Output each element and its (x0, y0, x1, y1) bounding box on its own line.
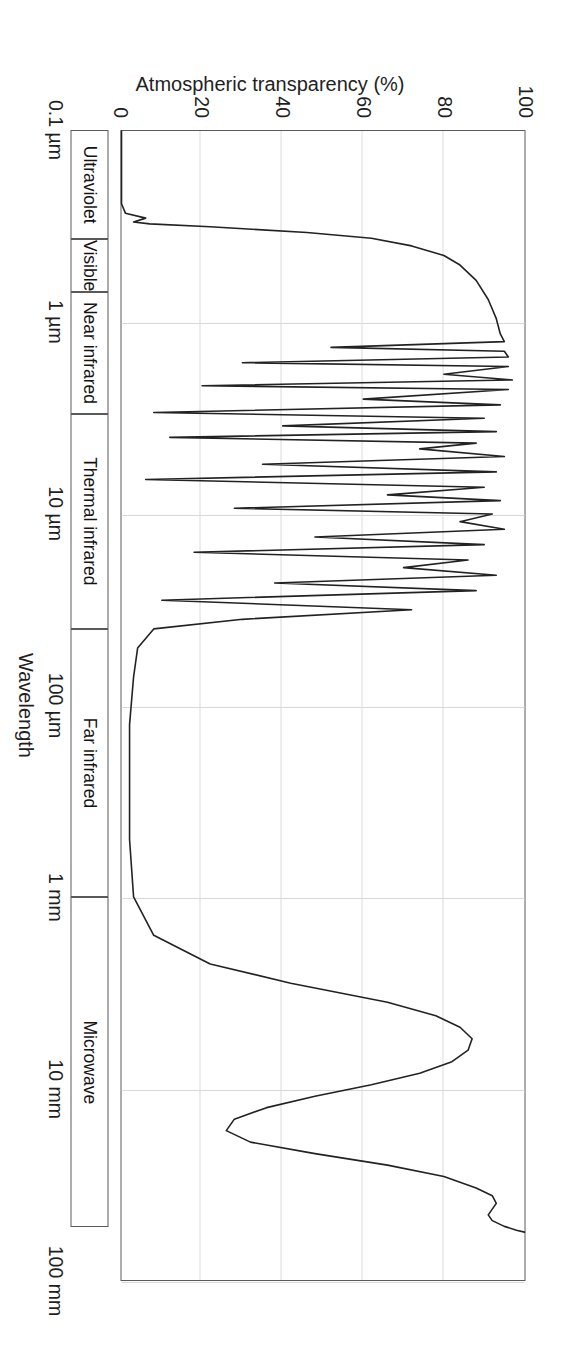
atmospheric-transparency-chart: 0 20 40 60 80 100 Atmospheric transparen… (0, 0, 567, 1362)
band-visible: Visible (70, 239, 108, 292)
transparency-curve (121, 131, 524, 1280)
gridline-vertical (121, 1282, 524, 1283)
x-tick-label: 10 µm (43, 486, 66, 541)
x-tick-label: 100 µm (43, 673, 66, 738)
band-label: Near infrared (79, 302, 100, 404)
band-ultraviolet: Ultraviolet (70, 130, 108, 239)
spectral-band-strip: UltravioletVisibleNear infraredThermal i… (70, 130, 108, 1281)
x-axis-title: Wavelength (13, 130, 36, 1281)
band-label: Thermal infrared (79, 457, 100, 585)
y-axis-labels: 0 20 40 60 80 100 Atmospheric transparen… (120, 0, 525, 126)
band-near-infrared: Near infrared (70, 292, 108, 414)
x-axis-labels: 0.1 µm1 µm10 µm100 µm1 mm10 mm100 mm (36, 130, 66, 1281)
y-tick-20: 20 (190, 96, 213, 118)
band-label: Ultraviolet (79, 146, 100, 224)
y-tick-100: 100 (514, 85, 537, 118)
x-tick-label: 1 µm (43, 300, 66, 344)
x-tick-label: 100 mm (43, 1246, 66, 1316)
band-label: Microwave (79, 1020, 100, 1104)
y-axis-title: Atmospheric transparency (%) (67, 73, 472, 96)
band-far-infrared: Far infrared (70, 629, 108, 898)
band-thermal-infrared: Thermal infrared (70, 414, 108, 629)
band-label: Far infrared (79, 718, 100, 808)
y-tick-80: 80 (433, 96, 456, 118)
y-tick-40: 40 (271, 96, 294, 118)
x-tick-label: 10 mm (43, 1059, 66, 1119)
plot-area (120, 130, 525, 1281)
y-tick-60: 60 (352, 96, 375, 118)
x-tick-label: 1 mm (43, 873, 66, 922)
band-label: Visible (79, 240, 100, 291)
band-microwave: Microwave (70, 897, 108, 1227)
y-tick-0: 0 (109, 107, 132, 118)
x-tick-label: 0.1 µm (43, 100, 66, 160)
chart-stage: 0 20 40 60 80 100 Atmospheric transparen… (0, 0, 567, 1362)
